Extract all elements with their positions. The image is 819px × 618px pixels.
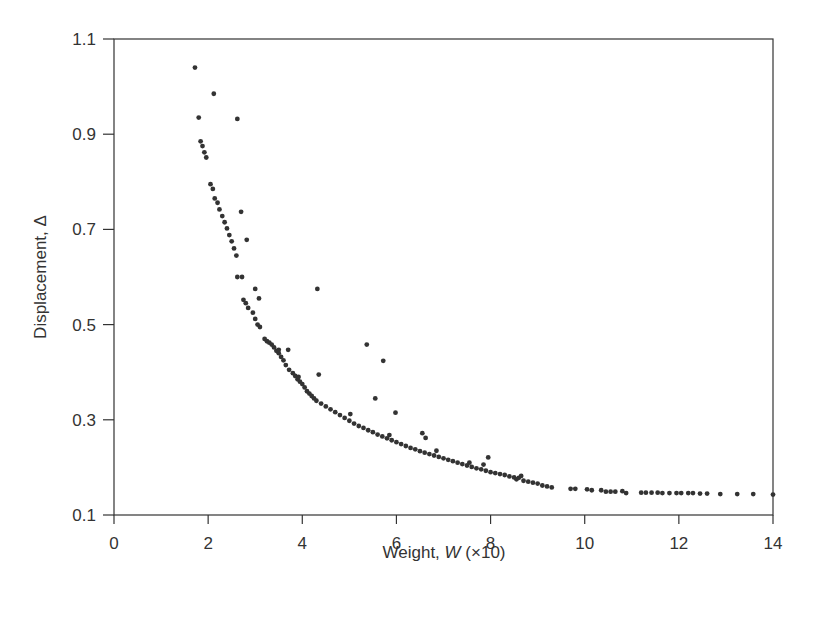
data-point	[422, 450, 427, 455]
x-tick-label: 12	[669, 534, 688, 553]
data-point	[243, 301, 248, 306]
data-point	[338, 413, 343, 418]
data-point	[479, 467, 484, 472]
data-point	[319, 401, 324, 406]
data-point	[276, 347, 281, 352]
data-point	[328, 407, 333, 412]
data-point	[540, 483, 545, 488]
data-point	[655, 490, 660, 495]
data-points	[193, 65, 776, 497]
data-point	[375, 432, 380, 437]
data-point	[660, 491, 665, 496]
x-tick-label: 14	[764, 534, 783, 553]
data-point	[208, 182, 213, 187]
data-point	[239, 209, 244, 214]
data-point	[370, 430, 375, 435]
x-tick-label: 0	[109, 534, 118, 553]
data-point	[455, 460, 460, 465]
data-point	[521, 478, 526, 483]
data-point	[314, 398, 319, 403]
data-point	[215, 200, 220, 205]
data-point	[220, 214, 225, 219]
data-point	[244, 237, 249, 242]
data-point	[649, 490, 654, 495]
data-point	[399, 442, 404, 447]
data-point	[342, 415, 347, 420]
data-point	[436, 455, 441, 460]
data-point	[469, 465, 474, 470]
plot-border	[114, 39, 773, 515]
scatter-chart: 02468101214 0.10.30.50.70.91.1 Weight, W…	[0, 0, 819, 618]
data-point	[460, 462, 465, 467]
data-point	[394, 440, 399, 445]
x-axis-title: Weight, W (×10)	[383, 543, 506, 562]
x-tick-label: 4	[298, 534, 307, 553]
data-point	[568, 486, 573, 491]
data-point	[232, 246, 237, 251]
data-point	[427, 452, 432, 457]
data-point	[211, 91, 216, 96]
data-point	[356, 424, 361, 429]
data-point	[441, 456, 446, 461]
data-point	[698, 491, 703, 496]
data-point	[210, 187, 215, 192]
data-point	[246, 306, 251, 311]
y-tick-label: 1.1	[72, 30, 96, 49]
data-point	[240, 275, 245, 280]
data-point	[418, 449, 423, 454]
y-tick-label: 0.1	[72, 506, 96, 525]
data-point	[502, 473, 507, 478]
data-point	[420, 431, 425, 436]
y-axis-title: Displacement, Δ	[31, 215, 50, 339]
data-point	[286, 347, 291, 352]
data-point	[347, 418, 352, 423]
data-point	[644, 490, 649, 495]
data-point	[434, 448, 439, 453]
data-point	[229, 239, 234, 244]
data-point	[315, 287, 320, 292]
y-axis: 0.10.30.50.70.91.1	[72, 30, 114, 525]
data-point	[608, 489, 613, 494]
data-point	[686, 491, 691, 496]
data-point	[381, 358, 386, 363]
data-point	[352, 421, 357, 426]
data-point	[281, 358, 286, 363]
data-point	[531, 480, 536, 485]
plot-frame	[114, 39, 773, 515]
data-point	[498, 472, 503, 477]
data-point	[235, 275, 240, 280]
data-point	[361, 425, 366, 430]
data-point	[316, 372, 321, 377]
data-point	[380, 434, 385, 439]
data-point	[467, 460, 472, 465]
data-point	[573, 486, 578, 491]
data-point	[486, 455, 491, 460]
data-point	[193, 65, 198, 70]
data-point	[389, 438, 394, 443]
data-point	[212, 196, 217, 201]
data-point	[705, 491, 710, 496]
data-point	[364, 342, 369, 347]
data-point	[446, 457, 451, 462]
data-point	[507, 474, 512, 479]
data-point	[545, 484, 550, 489]
data-point	[674, 491, 679, 496]
data-point	[408, 445, 413, 450]
data-point	[333, 410, 338, 415]
data-point	[393, 410, 398, 415]
data-point	[451, 459, 456, 464]
data-point	[413, 447, 418, 452]
data-point	[735, 492, 740, 497]
data-point	[257, 296, 262, 301]
data-point	[585, 487, 590, 492]
data-point	[481, 462, 486, 467]
data-point	[234, 253, 239, 258]
data-point	[222, 220, 227, 225]
data-point	[323, 404, 328, 409]
data-point	[519, 474, 524, 479]
data-point	[250, 310, 255, 315]
x-tick-label: 2	[203, 534, 212, 553]
data-point	[474, 466, 479, 471]
y-tick-label: 0.7	[72, 220, 96, 239]
data-point	[196, 115, 201, 120]
